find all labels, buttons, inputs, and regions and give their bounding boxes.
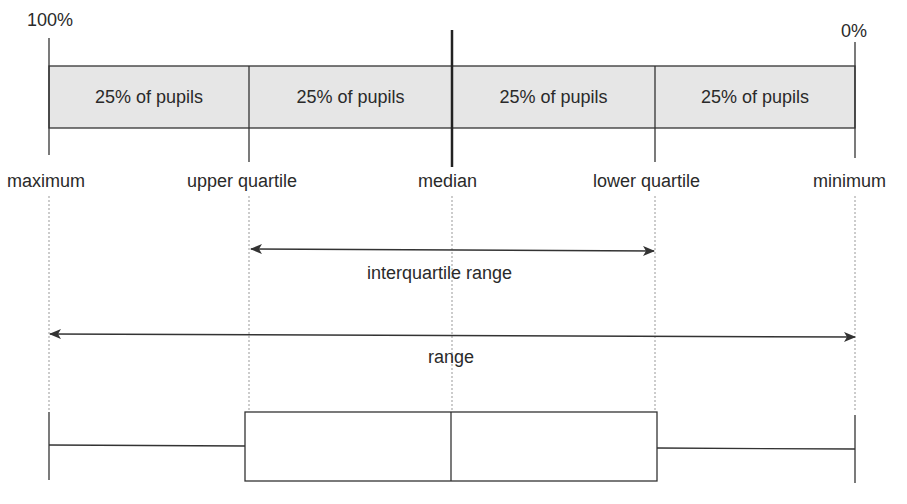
segment-label-2: 25% of pupils [249,66,452,128]
whisker-right [657,448,855,449]
whisker-left [49,445,245,446]
segment-label-1: 25% of pupils [49,66,249,128]
label-maximum: maximum [7,171,85,192]
label-range: range [428,347,474,368]
label-median: median [418,171,477,192]
segment-label-3: 25% of pupils [452,66,655,128]
label-minimum: minimum [813,171,886,192]
label-upper-quartile: upper quartile [187,171,297,192]
label-lower-quartile: lower quartile [593,171,700,192]
scale-label-0: 0% [841,21,867,42]
interquartile-range-arrow [251,249,654,251]
guide-lines [49,196,855,412]
scale-label-100: 100% [27,10,73,31]
label-interquartile-range: interquartile range [367,263,512,284]
segment-label-4: 25% of pupils [655,66,855,128]
